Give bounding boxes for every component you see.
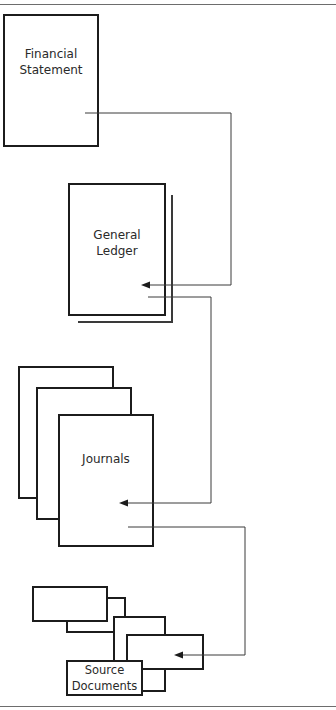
arrowhead-icon [119, 500, 128, 507]
edge-journals-to-source [128, 527, 245, 655]
edge-fs-to-gl [85, 113, 231, 285]
diagram-canvas: Financial Statement General Ledger Journ… [0, 0, 336, 710]
arrowhead-icon [174, 652, 183, 659]
connectors [0, 0, 336, 710]
edge-gl-to-journals [125, 297, 211, 503]
arrowhead-icon [141, 282, 150, 289]
